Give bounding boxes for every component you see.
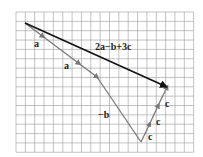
label-c-3: c [165,98,170,109]
vector-diagram: a a −b c c c 2a−b+3c [0,0,203,157]
label-c-2: c [156,116,161,127]
label-resultant: 2a−b+3c [95,41,132,52]
label-c-1: c [148,131,153,142]
grid [16,12,194,152]
label-a-2: a [64,60,69,71]
label-neg-b: −b [98,109,110,120]
label-a-1: a [34,38,39,49]
